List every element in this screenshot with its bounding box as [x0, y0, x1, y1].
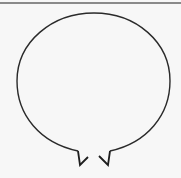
right-notch-icon [99, 151, 110, 165]
balloon-outline-figure [0, 0, 181, 178]
left-notch-icon [78, 151, 88, 165]
diagram-canvas [0, 0, 181, 178]
balloon-outline-arc [17, 13, 170, 151]
